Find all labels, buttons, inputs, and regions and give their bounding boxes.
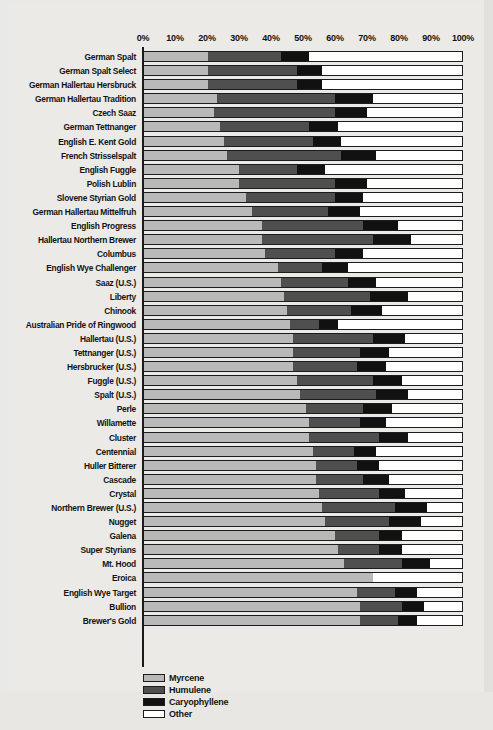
bar-segment-myrcene — [144, 292, 284, 301]
bar-row — [143, 261, 463, 275]
bar-segment-humulene — [208, 52, 281, 61]
bar-segment-caryophyllene — [335, 94, 373, 103]
category-label: Eroica — [0, 571, 140, 585]
bar-segment-other — [392, 404, 462, 413]
bar-row — [143, 177, 463, 191]
bar-segment-caryophyllene — [328, 207, 360, 216]
bar-segment-humulene — [217, 94, 335, 103]
legend-item: Caryophyllene — [143, 696, 303, 708]
bar-segment-myrcene — [144, 489, 319, 498]
bar-row — [143, 600, 463, 614]
bar-segment-humulene — [309, 433, 379, 442]
bar-segment-other — [338, 122, 462, 131]
category-label: Super Styrians — [0, 543, 140, 557]
bar-segment-other — [402, 545, 462, 554]
bar-segment-myrcene — [144, 573, 373, 582]
bar-segment-caryophyllene — [370, 292, 408, 301]
bar-row — [143, 219, 463, 233]
bar-segment-caryophyllene — [379, 489, 404, 498]
category-label: German Hallertau Tradition — [0, 92, 140, 106]
bar-segment-caryophyllene — [402, 559, 431, 568]
bar-row — [143, 515, 463, 529]
bar-segment-other — [411, 235, 462, 244]
bar-segment-myrcene — [144, 334, 293, 343]
bar-segment-caryophyllene — [313, 137, 342, 146]
bar-segment-myrcene — [144, 404, 306, 413]
bar-row — [143, 445, 463, 459]
stacked-bar — [143, 79, 463, 90]
category-label: Australian Pride of Ringwood — [0, 318, 140, 332]
bar-row — [143, 135, 463, 149]
stacked-bar — [143, 319, 463, 330]
bar-segment-myrcene — [144, 122, 220, 131]
x-tick-label: 100% — [452, 33, 474, 43]
category-label: Cluster — [0, 431, 140, 445]
bar-segment-myrcene — [144, 418, 309, 427]
bar-segment-humulene — [357, 588, 395, 597]
stacked-bar — [143, 361, 463, 372]
stacked-bar — [143, 446, 463, 457]
bar-segment-caryophyllene — [335, 249, 364, 258]
category-label: Tettnanger (U.S.) — [0, 346, 140, 360]
bar-row — [143, 431, 463, 445]
stacked-bar — [143, 460, 463, 471]
bar-segment-other — [398, 221, 462, 230]
bar-segment-other — [408, 433, 462, 442]
x-tick-label: 30% — [230, 33, 247, 43]
bar-row — [143, 346, 463, 360]
stacked-bar — [143, 121, 463, 132]
bar-segment-other — [373, 573, 462, 582]
bar-segment-humulene — [239, 179, 334, 188]
bar-segment-caryophyllene — [322, 263, 347, 272]
bar-segment-humulene — [322, 503, 395, 512]
bar-segment-myrcene — [144, 179, 239, 188]
x-tick-label: 90% — [422, 33, 439, 43]
stacked-bar — [143, 516, 463, 527]
bar-segment-myrcene — [144, 193, 246, 202]
stacked-bar — [143, 488, 463, 499]
bar-segment-humulene — [281, 278, 348, 287]
bar-segment-myrcene — [144, 475, 316, 484]
category-label: Chinook — [0, 304, 140, 318]
chart-legend: MyrceneHumuleneCaryophylleneOther — [143, 672, 303, 720]
bar-segment-other — [325, 165, 462, 174]
bar-segment-myrcene — [144, 362, 293, 371]
category-label: Saaz (U.S.) — [0, 276, 140, 290]
bar-row — [143, 614, 463, 628]
category-label: Hersbrucker (U.S.) — [0, 360, 140, 374]
bar-row — [143, 374, 463, 388]
category-label: German Hallertau Mittelfruh — [0, 205, 140, 219]
bar-row — [143, 360, 463, 374]
bar-segment-myrcene — [144, 66, 208, 75]
category-label: Perle — [0, 402, 140, 416]
bar-segment-other — [408, 292, 462, 301]
bar-segment-caryophyllene — [373, 235, 411, 244]
bar-segment-other — [367, 108, 462, 117]
bar-segment-myrcene — [144, 545, 338, 554]
bar-segment-humulene — [293, 362, 357, 371]
bar-segment-myrcene — [144, 235, 262, 244]
bar-segment-other — [405, 489, 462, 498]
bar-segment-myrcene — [144, 376, 297, 385]
bar-segment-other — [427, 503, 462, 512]
stacked-bar — [143, 333, 463, 344]
legend-swatch-other — [143, 710, 165, 718]
stacked-bar — [143, 262, 463, 273]
category-label: Centennial — [0, 445, 140, 459]
category-label: Northern Brewer (U.S.) — [0, 501, 140, 515]
bar-segment-humulene — [252, 207, 328, 216]
bar-segment-other — [386, 362, 462, 371]
bar-segment-humulene — [246, 193, 335, 202]
bar-segment-caryophyllene — [398, 616, 417, 625]
bar-segment-myrcene — [144, 94, 217, 103]
bar-segment-caryophyllene — [395, 588, 417, 597]
bar-segment-caryophyllene — [335, 108, 367, 117]
category-label: German Spalt Select — [0, 64, 140, 78]
bar-row — [143, 318, 463, 332]
bar-row — [143, 388, 463, 402]
bar-segment-humulene — [214, 108, 335, 117]
bar-segment-myrcene — [144, 616, 360, 625]
category-label: Galena — [0, 529, 140, 543]
bar-segment-caryophyllene — [363, 221, 398, 230]
category-axis-labels: German SpaltGerman Spalt SelectGerman Ha… — [0, 50, 140, 628]
